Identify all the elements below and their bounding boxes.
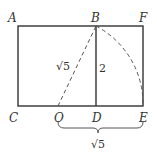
- label-d: D: [91, 111, 102, 125]
- golden-rectangle-diagram: A B F C O D E √5 2 √5: [0, 0, 157, 155]
- label-ob-length: √5: [56, 60, 70, 73]
- label-f: F: [138, 11, 148, 25]
- label-a: A: [7, 11, 17, 25]
- label-bd-length: 2: [99, 62, 106, 75]
- label-b: B: [90, 11, 100, 25]
- label-c: C: [9, 111, 18, 125]
- label-o: O: [54, 111, 64, 125]
- rectangle-acef: [18, 26, 143, 106]
- label-e: E: [138, 111, 148, 125]
- label-oe-length: √5: [91, 138, 105, 151]
